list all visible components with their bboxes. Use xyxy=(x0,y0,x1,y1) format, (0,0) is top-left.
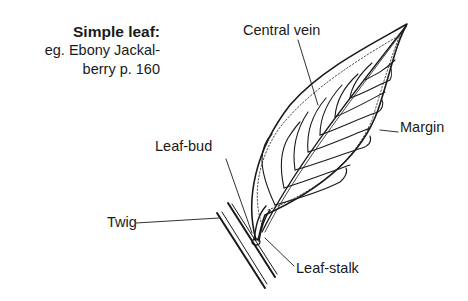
label-margin: Margin xyxy=(400,119,444,136)
central-vein-shape xyxy=(262,26,406,232)
twig-shape xyxy=(217,203,277,288)
label-leaf-bud: Leaf-bud xyxy=(155,138,212,155)
label-central-vein: Central vein xyxy=(243,22,320,39)
label-twig: Twig xyxy=(107,214,137,231)
leaf-diagram xyxy=(0,0,468,301)
label-leaf-stalk: Leaf-stalk xyxy=(296,260,359,277)
